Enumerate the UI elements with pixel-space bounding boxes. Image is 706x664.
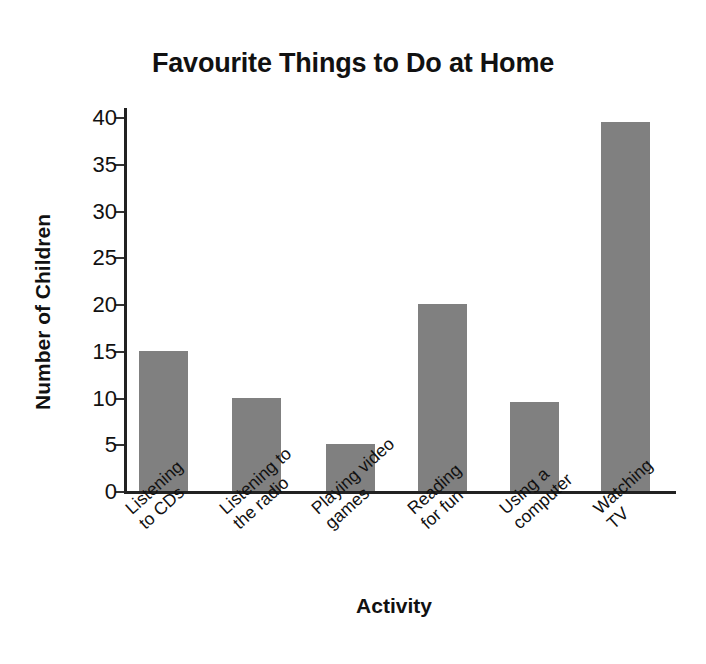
chart-title: Favourite Things to Do at Home — [0, 48, 706, 79]
y-axis-tick-label: 15 — [93, 339, 117, 365]
y-axis-tick-label: 35 — [93, 152, 117, 178]
bar — [418, 304, 467, 491]
x-axis-category-label: Listening to CDs — [122, 457, 200, 533]
y-axis-tick-label: 40 — [93, 105, 117, 131]
y-axis-tick-label: 10 — [93, 386, 117, 412]
bar — [601, 122, 650, 491]
bar-chart: Favourite Things to Do at Home Number of… — [0, 0, 706, 664]
x-axis-category-label: Reading for fun — [404, 460, 479, 533]
x-axis-category-label: Using a computer — [496, 455, 576, 533]
y-axis-line — [124, 108, 127, 494]
y-axis-tick-label: 20 — [93, 292, 117, 318]
x-axis-line — [124, 491, 676, 494]
y-axis-title: Number of Children — [31, 192, 55, 432]
y-axis-tick-label: 0 — [105, 479, 117, 505]
y-axis-tick-label: 30 — [93, 199, 117, 225]
plot-area: 0510152025303540 Listening to CDsListeni… — [124, 100, 676, 494]
y-axis-tick-label: 5 — [105, 432, 117, 458]
x-axis-title: Activity — [124, 594, 664, 618]
y-axis-tick-label: 25 — [93, 245, 117, 271]
